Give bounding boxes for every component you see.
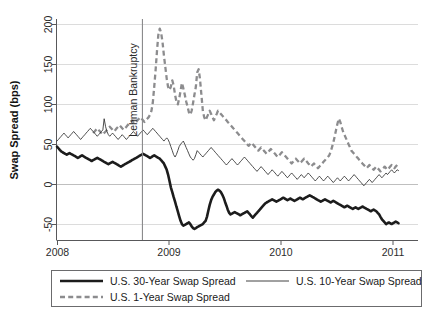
gridlines xyxy=(57,25,418,225)
x-tick-label-2010: 2010 xyxy=(269,246,293,258)
y-tick-label-50: 50 xyxy=(42,139,54,151)
y-tick-label-0: 0 xyxy=(42,181,54,187)
y-axis: 200 150 100 50 0 -50 Swap Spread (bps) xyxy=(8,16,57,240)
legend: U.S. 30-Year Swap Spread U.S. 10-Year Sw… xyxy=(52,271,422,307)
y-axis-title: Swap Spread (bps) xyxy=(8,80,20,179)
y-tick-label-neg50: -50 xyxy=(42,217,54,232)
swap-spread-chart-figure: 200 150 100 50 0 -50 Swap Spread (bps) 2… xyxy=(0,0,428,313)
chart-svg: 200 150 100 50 0 -50 Swap Spread (bps) 2… xyxy=(0,0,428,313)
lehman-annotation: Lehman Bankruptcy xyxy=(127,19,142,240)
legend-label-10-year: U.S. 10-Year Swap Spread xyxy=(296,275,422,287)
y-tick-label-150: 150 xyxy=(42,56,54,74)
x-tick-label-2011: 2011 xyxy=(382,246,405,258)
x-tick-label-2008: 2008 xyxy=(46,246,70,258)
lehman-event-label: Lehman Bankruptcy xyxy=(127,43,139,137)
series-plot-group xyxy=(57,29,399,229)
legend-label-1-year: U.S. 1-Year Swap Spread xyxy=(110,291,230,303)
legend-label-30-year: U.S. 30-Year Swap Spread xyxy=(110,275,236,287)
x-tick-label-2009: 2009 xyxy=(157,246,181,258)
x-axis: 2008 2009 2010 2011 xyxy=(46,241,418,259)
series-line-30-year xyxy=(57,147,399,229)
y-tick-label-200: 200 xyxy=(42,16,54,34)
y-tick-label-100: 100 xyxy=(42,96,54,114)
series-line-10-year xyxy=(57,119,399,186)
